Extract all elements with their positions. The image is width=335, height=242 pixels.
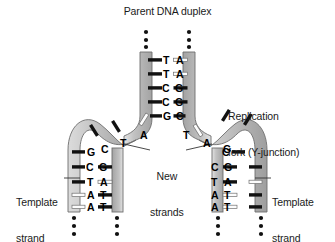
parent-base-right-3: G — [175, 83, 183, 93]
parent-base-left-2: T — [163, 69, 169, 79]
ellipsis-bottom-4 — [259, 216, 263, 236]
ellipsis-top-left — [144, 30, 148, 49]
replication-fork-label-line2: fork (Y-junction) — [228, 146, 299, 158]
left-daughter-base-left-1: C — [86, 162, 94, 172]
parent-base-right-5: C — [176, 111, 184, 121]
replication-fork-label: Replication fork (Y-junction) — [228, 86, 299, 170]
left-daughter-base-right-4: T — [100, 202, 106, 212]
right-daughter-base-left-1: C — [211, 162, 219, 172]
parent-base-left-1: T — [163, 55, 169, 65]
left-daughter-base-right-2: A — [100, 177, 108, 187]
parent-base-left-4: C — [162, 97, 170, 107]
template-strand-label-left-line2: strand — [16, 232, 58, 242]
new-strands-label-line1: New — [150, 170, 184, 182]
new-strands-label-line2: strands — [150, 206, 184, 218]
right-daughter-base-right-2: A — [224, 177, 232, 187]
fork-free-base-left-t: T — [120, 138, 126, 148]
right-daughter-base-left-2: T — [211, 177, 217, 187]
new-strand-left — [112, 148, 123, 212]
replication-fork-label-line1: Replication — [228, 110, 299, 122]
fork-free-base-left-inner-a: A — [140, 130, 148, 140]
new-strands-label: New strands — [150, 146, 184, 230]
parent-base-right-1: A — [176, 55, 184, 65]
parent-base-right-4: G — [175, 97, 183, 107]
right-daughter-base-right-3: T — [224, 190, 230, 200]
right-daughter-base-right-4: T — [224, 202, 230, 212]
parent-base-left-3: C — [162, 83, 170, 93]
right-daughter-base-left-4: A — [211, 202, 219, 212]
fork-free-base-right-a: A — [203, 138, 211, 148]
figure-title: Parent DNA duplex — [0, 5, 335, 17]
parent-base-right-2: A — [176, 69, 184, 79]
template-strand-label-right: Template strand — [272, 172, 314, 242]
ellipsis-bottom-3 — [216, 216, 220, 236]
template-strand-label-left-line1: Template — [16, 196, 58, 208]
ellipsis-bottom-1 — [72, 216, 76, 236]
right-daughter-base-unpaired: C — [222, 147, 230, 157]
template-strand-label-right-line2: strand — [272, 232, 314, 242]
leader-line-new-strands-left — [124, 144, 150, 150]
template-strand-label-left: Template strand — [16, 172, 58, 242]
ellipsis-bottom-2 — [115, 216, 119, 236]
template-strand-label-right-line1: Template — [272, 196, 314, 208]
left-daughter-rung-unpaired — [72, 150, 85, 153]
left-daughter-base-right-1: G — [99, 162, 107, 172]
right-daughter-base-right-1: G — [224, 162, 232, 172]
parent-base-left-5: G — [163, 111, 171, 121]
left-daughter-base-unpaired: G — [87, 147, 95, 157]
ellipsis-top-right — [187, 30, 191, 49]
left-daughter-base-left-4: A — [87, 202, 95, 212]
fork-free-base-right-inner-t: T — [183, 130, 189, 140]
fork-free-base-left-c: C — [101, 144, 109, 154]
left-daughter-base-right-3: T — [100, 190, 106, 200]
left-daughter-base-left-2: T — [87, 177, 93, 187]
left-daughter-base-left-3: A — [87, 190, 95, 200]
right-daughter-base-left-3: A — [211, 190, 219, 200]
